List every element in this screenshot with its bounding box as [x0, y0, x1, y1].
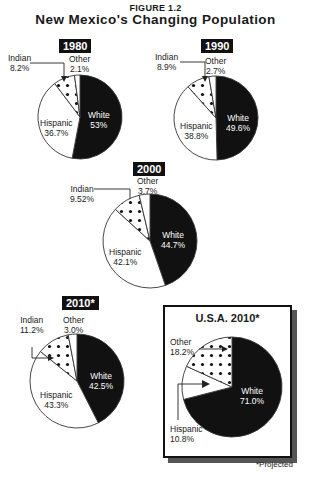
label-1990-hispanic: Hispanic 38.8%: [180, 121, 213, 141]
label-usa-hispanic: Hispanic 10.8%: [170, 424, 203, 444]
slice-name: White: [240, 386, 264, 396]
slice-value: 2.1%: [69, 64, 90, 74]
slice-value: 43.3%: [40, 400, 73, 410]
slice-name: Hispanic: [109, 247, 142, 257]
slice-name: White: [226, 113, 250, 123]
slice-name: Other: [63, 315, 84, 325]
slice-name: Hispanic: [40, 390, 73, 400]
label-2010-other: Other 3.0%: [63, 315, 84, 335]
slice-value: 8.2%: [8, 63, 31, 73]
year-tag-2000: 2000: [133, 162, 165, 176]
year-tag-usa-2010: U.S.A. 2010*: [163, 312, 292, 324]
label-1990-white: White 49.6%: [226, 113, 250, 133]
slice-name: Indian: [20, 315, 43, 325]
slice-value: 42.5%: [89, 381, 113, 391]
slice-name: Hispanic: [40, 118, 73, 128]
slice-value: 36.7%: [40, 128, 73, 138]
slice-value: 49.6%: [226, 123, 250, 133]
label-usa-white: White 71.0%: [240, 386, 264, 406]
slice-name: Indian: [8, 53, 31, 63]
slice-value: 71.0%: [240, 396, 264, 406]
slice-value: 2.7%: [205, 66, 226, 76]
label-1980-indian: Indian 8.2%: [8, 53, 31, 73]
slice-name: Hispanic: [180, 121, 213, 131]
slice-value: 53%: [88, 120, 110, 130]
slice-value: 44.7%: [161, 240, 185, 250]
label-1980-hispanic: Hispanic 36.7%: [40, 118, 73, 138]
slice-name: Indian: [70, 184, 94, 194]
slice-name: White: [89, 371, 113, 381]
label-1990-indian: Indian 8.9%: [155, 52, 178, 72]
label-1980-white: White 53%: [88, 110, 110, 130]
label-2010-indian: Indian 11.2%: [20, 315, 43, 335]
slice-value: 42.1%: [109, 257, 142, 267]
slice-name: Other: [170, 337, 194, 347]
label-2000-other: Other 3.7%: [137, 176, 158, 196]
slice-name: Other: [69, 54, 90, 64]
slice-name: Indian: [155, 52, 178, 62]
slice-name: Other: [205, 56, 226, 66]
slice-name: Other: [137, 176, 158, 186]
slice-value: 3.7%: [137, 186, 158, 196]
slice-value: 11.2%: [20, 325, 43, 335]
label-2010-hispanic: Hispanic 43.3%: [40, 390, 73, 410]
slice-name: White: [161, 230, 185, 240]
pie-usa-2010: [182, 337, 282, 437]
slice-name: Hispanic: [170, 424, 203, 434]
year-tag-1990: 1990: [201, 39, 233, 53]
slice-name: White: [88, 110, 110, 120]
slice-value: 10.8%: [170, 434, 203, 444]
label-1990-other: Other 2.7%: [205, 56, 226, 76]
label-2000-hispanic: Hispanic 42.1%: [109, 247, 142, 267]
year-tag-1980: 1980: [59, 39, 91, 53]
year-tag-2010: 2010*: [62, 296, 99, 310]
label-usa-other: Other 18.2%: [170, 337, 194, 357]
label-2010-white: White 42.5%: [89, 371, 113, 391]
slice-value: 3.0%: [63, 325, 84, 335]
label-2000-indian: Indian 9.52%: [70, 184, 94, 204]
slice-value: 18.2%: [170, 347, 194, 357]
slice-value: 38.8%: [180, 131, 213, 141]
slice-value: 9.52%: [70, 194, 94, 204]
label-2000-white: White 44.7%: [161, 230, 185, 250]
label-1980-other: Other 2.1%: [69, 54, 90, 74]
footnote: *Projected: [256, 460, 293, 469]
slice-value: 8.9%: [155, 62, 178, 72]
